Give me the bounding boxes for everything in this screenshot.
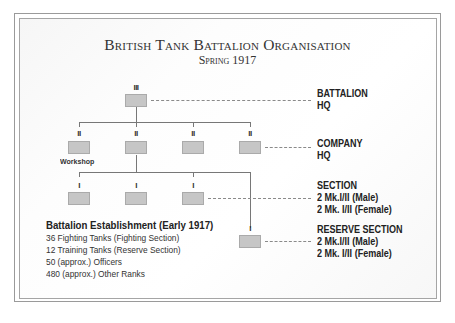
diagram-subtitle: Spring 1917 xyxy=(0,53,455,68)
company-tick-2 xyxy=(136,122,137,127)
reserve-section-dash xyxy=(265,241,311,242)
reserve-section-label: RESERVE SECTION 2 Mk.I/II (Male) 2 Mk. I… xyxy=(317,223,403,259)
company-tick-3 xyxy=(193,122,194,127)
reserve-connector xyxy=(250,172,251,228)
company-box xyxy=(182,141,204,154)
section-box xyxy=(182,192,204,205)
establishment-line: 50 (approx.) Officers xyxy=(46,256,213,268)
battalion-connector xyxy=(136,107,137,123)
establishment-heading: Battalion Establishment (Early 1917) xyxy=(46,219,213,232)
reserve-section-box xyxy=(239,235,261,248)
company-connector xyxy=(136,155,137,173)
section-label: SECTION 2 Mk.I/II (Male) 2 Mk. I/II (Fem… xyxy=(317,179,392,215)
establishment-line: 12 Training Tanks (Reserve Section) xyxy=(46,244,213,256)
section-tick-1 xyxy=(79,172,80,177)
section-symbol: I xyxy=(125,181,147,190)
section-tick-3 xyxy=(193,172,194,177)
company-tick-1 xyxy=(79,122,80,127)
establishment-block: Battalion Establishment (Early 1917) 36 … xyxy=(46,219,213,280)
section-bracket xyxy=(79,172,251,173)
diagram-title: British Tank Battalion Organisation xyxy=(0,36,455,54)
battalion-symbol: III xyxy=(125,83,147,92)
establishment-line: 480 (approx.) Other Ranks xyxy=(46,268,213,280)
company-bracket xyxy=(79,122,251,123)
company-symbol: II xyxy=(68,129,90,138)
section-dash xyxy=(208,198,311,199)
section-symbol: I xyxy=(182,181,204,190)
reserve-section-symbol: I xyxy=(239,224,261,233)
company-symbol: II xyxy=(239,129,261,138)
company-symbol: II xyxy=(125,129,147,138)
battalion-hq-label: BATTALION HQ xyxy=(317,87,368,111)
company-hq-box xyxy=(239,141,261,154)
battalion-hq-dash xyxy=(151,100,311,101)
section-symbol: I xyxy=(68,181,90,190)
section-box xyxy=(125,192,147,205)
company-box xyxy=(125,141,147,154)
establishment-line: 36 Fighting Tanks (Fighting Section) xyxy=(46,232,213,244)
battalion-hq-box xyxy=(125,94,147,107)
company-symbol: II xyxy=(182,129,204,138)
workshop-label: Workshop xyxy=(60,157,94,166)
section-box xyxy=(68,192,90,205)
company-hq-label: COMPANY HQ xyxy=(317,137,362,161)
company-tick-4 xyxy=(250,122,251,127)
workshop-company-box xyxy=(68,141,90,154)
company-hq-dash xyxy=(265,147,311,148)
